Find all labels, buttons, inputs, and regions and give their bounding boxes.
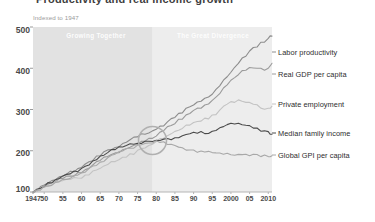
legend-label-private-employment: Private employment [278,100,344,109]
x-tick-2000: 2000 [223,195,239,202]
x-tick-55: 55 [59,195,67,202]
band-label-growing-together: Growing Together [66,32,125,39]
chart-root: Productivity and real income growth Inde… [0,0,375,222]
band-label-great-divergence: The Great Divergence [177,32,249,39]
x-tick-70: 70 [115,195,123,202]
x-tick-50: 50 [40,195,48,202]
x-tick-1947: 1947 [25,195,41,202]
legend-label-global-gpi-per-capita: Global GPI per capita [278,151,350,160]
legend-label-median-family-income: Median family income [278,129,350,138]
legend-label-labor-productivity: Labor productivity [278,48,337,57]
x-tick-90: 90 [190,195,198,202]
x-tick-60: 60 [78,195,86,202]
legend-label-real-gdp-per-capita: Real GDP per capita [278,70,347,79]
x-tick-95: 95 [208,195,216,202]
x-tick-75: 75 [134,195,142,202]
x-tick-80: 80 [152,195,160,202]
band-growing-together [33,27,153,192]
x-tick-05: 05 [246,195,254,202]
band-great-divergence [153,27,273,192]
x-tick-85: 85 [171,195,179,202]
x-tick-2010: 2010 [260,195,276,202]
x-tick-65: 65 [96,195,104,202]
